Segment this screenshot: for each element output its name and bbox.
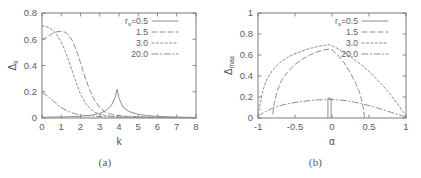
legend-label: rs=0.5 bbox=[125, 16, 148, 27]
legend: rs=0.51.53.020.0 bbox=[335, 16, 388, 59]
y-tick-label: 1 bbox=[248, 7, 253, 18]
legend-label: 20.0 bbox=[341, 49, 358, 59]
y-tick-label: 0 bbox=[248, 112, 253, 123]
y-tick-label: 0.4 bbox=[24, 60, 37, 71]
y-tick-label: 0.6 bbox=[24, 34, 37, 45]
x-tick-label: -0.5 bbox=[287, 121, 303, 132]
y-tick-label: 0.8 bbox=[240, 28, 253, 39]
panel-b-caption: (b) bbox=[210, 156, 421, 168]
curve-dashdot bbox=[258, 100, 406, 117]
x-tick-label: 2 bbox=[78, 121, 83, 132]
panel-a-caption: (a) bbox=[0, 156, 210, 168]
y-tick-label: 0 bbox=[32, 112, 37, 123]
figure-container: 01234567800.20.40.60.8kΔkrs=0.51.53.020.… bbox=[0, 0, 421, 178]
x-tick-label: 5 bbox=[136, 121, 141, 132]
x-tick-label: 1 bbox=[59, 121, 64, 132]
panel-b: -1-0.500.5100.20.40.60.81αΔmaxrs=0.51.53… bbox=[210, 0, 421, 178]
y-tick-label: 0.2 bbox=[24, 86, 37, 97]
curve-dashed bbox=[42, 31, 196, 117]
curve-dashed bbox=[273, 49, 365, 118]
x-tick-label: 0.5 bbox=[362, 121, 375, 132]
x-tick-label: 3 bbox=[97, 121, 102, 132]
plot-b: -1-0.500.5100.20.40.60.81αΔmaxrs=0.51.53… bbox=[210, 0, 421, 150]
x-axis-label: k bbox=[117, 136, 123, 147]
legend-label: rs=0.5 bbox=[335, 16, 358, 27]
legend-label: 3.0 bbox=[136, 38, 148, 48]
x-tick-label: 1 bbox=[403, 121, 408, 132]
x-tick-label: 0 bbox=[329, 121, 334, 132]
x-axis-label: α bbox=[329, 136, 335, 147]
legend-label: 1.5 bbox=[136, 27, 148, 37]
curve-solid bbox=[42, 89, 196, 117]
svg-text:Δk: Δk bbox=[7, 60, 19, 71]
curve-solid bbox=[328, 98, 331, 118]
plot-a: 01234567800.20.40.60.8kΔkrs=0.51.53.020.… bbox=[0, 0, 210, 150]
curve-dotted bbox=[42, 26, 196, 118]
y-tick-label: 0.6 bbox=[240, 49, 253, 60]
legend-label: 20.0 bbox=[131, 49, 148, 59]
x-tick-label: 7 bbox=[174, 121, 179, 132]
legend-label: 1.5 bbox=[346, 27, 358, 37]
y-axis-label: Δk bbox=[7, 60, 19, 71]
x-tick-label: 8 bbox=[193, 121, 198, 132]
x-tick-label: 6 bbox=[155, 121, 160, 132]
x-tick-label: -1 bbox=[254, 121, 262, 132]
x-tick-label: 0 bbox=[39, 121, 44, 132]
svg-text:Δmax: Δmax bbox=[223, 55, 235, 75]
x-tick-label: 4 bbox=[116, 121, 121, 132]
panel-a: 01234567800.20.40.60.8kΔkrs=0.51.53.020.… bbox=[0, 0, 210, 178]
legend: rs=0.51.53.020.0 bbox=[125, 16, 178, 59]
y-axis-label: Δmax bbox=[223, 55, 235, 75]
y-tick-label: 0.4 bbox=[240, 70, 253, 81]
legend-label: 3.0 bbox=[346, 38, 358, 48]
y-tick-label: 0.8 bbox=[24, 7, 37, 18]
y-tick-label: 0.2 bbox=[240, 91, 253, 102]
